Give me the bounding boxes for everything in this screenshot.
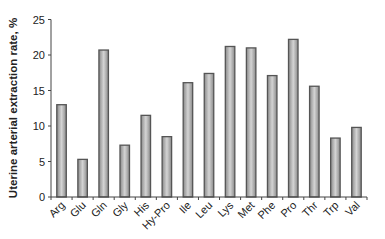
y-tick-label: 25 [33, 14, 45, 26]
x-tick-label: Thr [300, 199, 320, 219]
bar-met [246, 48, 256, 197]
x-tick-label: Val [343, 199, 362, 218]
bars-group [57, 39, 361, 197]
bar-glu [78, 159, 88, 197]
bar-phe [267, 76, 277, 197]
bar-arg [57, 105, 67, 197]
x-tick-label: Lys [215, 199, 236, 220]
x-tick-label: Leu [193, 199, 214, 220]
x-tick-label: Trp [321, 199, 341, 219]
bar-gln [99, 50, 109, 197]
bar-lys [225, 46, 235, 197]
y-tick-label: 5 [39, 156, 45, 168]
x-tick-label: Arg [46, 199, 67, 220]
bar-val [352, 127, 362, 197]
bar-hy-pro [162, 137, 172, 197]
x-tick-label: Gly [110, 199, 131, 220]
bar-his [141, 115, 151, 197]
x-ticks-group: ArgGluGlnGlyHisHy-ProIleLeuLysMetPheProT… [46, 197, 367, 232]
x-tick-label: Pro [278, 199, 299, 220]
bar-thr [310, 86, 320, 197]
x-tick-label: Phe [255, 199, 277, 221]
y-ticks-group: 0510152025 [33, 14, 51, 204]
bar-ile [183, 83, 193, 197]
y-tick-label: 10 [33, 120, 45, 132]
bar-pro [289, 39, 299, 197]
x-tick-label: Met [235, 199, 256, 220]
bar-trp [331, 138, 341, 197]
x-tick-label: Ile [177, 199, 194, 216]
bar-leu [204, 73, 214, 197]
x-tick-label: Glu [67, 199, 88, 220]
bar-chart: 0510152025 ArgGluGlnGlyHisHy-ProIleLeuLy… [0, 0, 385, 239]
y-tick-label: 15 [33, 85, 45, 97]
x-tick-label: Gln [88, 199, 109, 220]
y-tick-label: 0 [39, 191, 45, 203]
y-tick-label: 20 [33, 49, 45, 61]
bar-gly [120, 145, 130, 197]
